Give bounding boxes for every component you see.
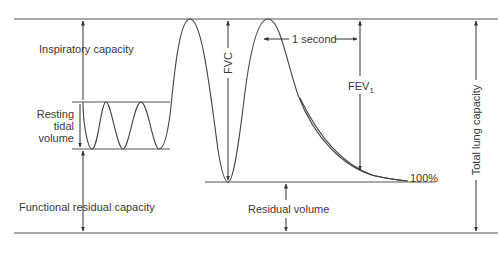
percent-100-label: 100% (410, 172, 438, 184)
resting-tidal-volume-label-line2: tidal (20, 120, 74, 132)
functional-residual-capacity-label: Functional residual capacity (19, 201, 155, 213)
resting-tidal-volume-label-line1: Resting (20, 108, 74, 120)
inspiratory-capacity-label: Inspiratory capacity (39, 43, 134, 55)
total-lung-capacity-label: Total lung capacity (470, 80, 482, 180)
fev1-label-main: FEV (348, 80, 369, 92)
one-second-label: 1 second (292, 33, 337, 45)
resting-tidal-volume-label-line3: volume (20, 132, 74, 144)
fev1-label-subscript: 1 (369, 86, 373, 95)
residual-volume-label: Residual volume (248, 203, 329, 215)
fvc-label: FVC (222, 48, 234, 78)
fev1-label: FEV1 (348, 80, 374, 97)
spirogram-diagram (0, 0, 498, 254)
